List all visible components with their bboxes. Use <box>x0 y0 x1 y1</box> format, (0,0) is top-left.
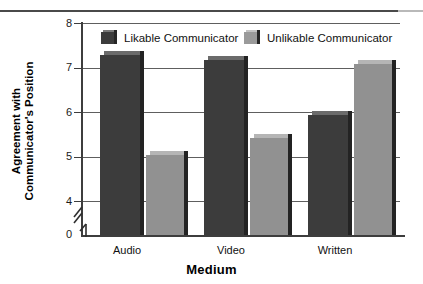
bar-top-cap <box>150 151 188 155</box>
chart-legend: Likable Communicator Unlikable Communica… <box>0 30 423 54</box>
y-tick-label-6: 6 <box>50 107 72 118</box>
bar-face <box>146 155 184 236</box>
bar-audio-unlikable[interactable] <box>146 155 184 236</box>
bar-written-unlikable[interactable] <box>354 64 392 236</box>
bar-video-unlikable[interactable] <box>250 138 288 236</box>
legend-item-likable[interactable]: Likable Communicator <box>101 30 238 45</box>
bar-face <box>354 64 392 236</box>
bar-face <box>250 138 288 236</box>
y-tick-label-8: 8 <box>50 18 72 29</box>
bar-written-likable[interactable] <box>308 115 348 236</box>
bar-side-shadow <box>140 51 144 236</box>
y-tick-5 <box>74 157 82 158</box>
bar-side-shadow <box>244 56 248 236</box>
bar-chart-figure: 8 7 6 5 4 0 Likable Communicator <box>0 0 423 284</box>
bar-side-shadow <box>392 60 396 236</box>
y-tick-label-0: 0 <box>50 229 72 240</box>
y-tick-label-5: 5 <box>50 151 72 162</box>
bar-top-cap <box>358 60 396 64</box>
bar-side-shadow <box>184 151 188 236</box>
legend-label-unlikable: Unlikable Communicator <box>267 32 392 44</box>
dark-swatch-icon <box>101 30 117 45</box>
bar-video-likable[interactable] <box>204 60 244 236</box>
y-tick-label-7: 7 <box>50 62 72 73</box>
y-tick-label-4: 4 <box>50 196 72 207</box>
light-swatch-icon <box>244 30 260 45</box>
x-category-label-audio: Audio <box>92 244 162 256</box>
x-axis-line <box>81 235 405 237</box>
bar-top-cap <box>208 56 248 60</box>
top-divider-rule-tail <box>398 10 423 12</box>
bar-top-cap <box>312 111 352 115</box>
plot-area <box>82 23 400 236</box>
y-axis-break-mark-lower <box>79 222 93 238</box>
y-tick-8 <box>74 23 82 24</box>
gridline-8 <box>82 23 400 24</box>
legend-label-likable: Likable Communicator <box>124 32 238 44</box>
bar-audio-likable[interactable] <box>100 55 140 236</box>
x-category-label-written: Written <box>300 244 370 256</box>
y-axis-title-line2: Communicator's Position <box>23 46 36 216</box>
y-tick-6 <box>74 112 82 113</box>
bar-face <box>100 55 140 236</box>
bar-side-shadow <box>288 134 292 236</box>
x-axis-title: Medium <box>0 262 423 277</box>
y-tick-7 <box>74 68 82 69</box>
y-tick-4 <box>74 201 82 202</box>
bar-side-shadow <box>348 111 352 236</box>
y-axis-title: Agreement with Communicator's Position <box>10 46 36 216</box>
bar-face <box>308 115 348 236</box>
bar-face <box>204 60 244 236</box>
bar-top-cap <box>254 134 292 138</box>
y-axis-title-line1: Agreement with <box>10 46 23 216</box>
legend-item-unlikable[interactable]: Unlikable Communicator <box>244 30 392 45</box>
x-category-label-video: Video <box>196 244 266 256</box>
